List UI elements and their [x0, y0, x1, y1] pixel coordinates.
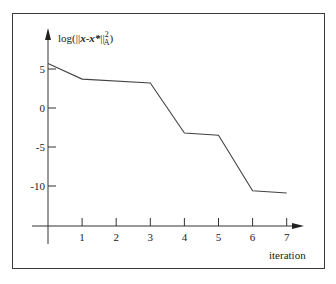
data-line — [48, 64, 287, 194]
x-tick-label: 5 — [216, 231, 222, 243]
x-tick-label: 6 — [250, 231, 256, 243]
x-tick-label: 1 — [79, 231, 85, 243]
x-ticks: 1234567 — [79, 218, 290, 243]
y-tick-label: -10 — [30, 180, 45, 192]
y-ticks: 50-5-10 — [30, 63, 56, 192]
y-tick-label: 5 — [40, 63, 46, 75]
x-tick-label: 3 — [148, 231, 154, 243]
y-axis-arrow-icon — [45, 28, 51, 40]
x-tick-label: 4 — [182, 231, 188, 243]
y-tick-label: -5 — [36, 141, 46, 153]
x-tick-label: 2 — [113, 231, 119, 243]
x-axis-label: iteration — [269, 249, 306, 261]
x-tick-label: 7 — [284, 231, 290, 243]
x-axis-arrow-icon — [292, 223, 304, 229]
y-tick-label: 0 — [40, 102, 46, 114]
y-axis-label: log(||x-x*||2A) — [58, 30, 113, 47]
line-chart: 50-5-10 1234567 log(||x-x*||2A) iteratio… — [0, 0, 336, 284]
